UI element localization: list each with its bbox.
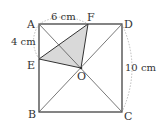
measure-ae: 4 cm [11, 36, 36, 47]
measure-af: 6 cm [51, 11, 76, 22]
label-o: O [77, 70, 86, 83]
square-diagram: A D B C F E O 6 cm 4 cm 10 cm [0, 0, 163, 125]
label-f: F [87, 11, 95, 24]
point-o [80, 67, 83, 70]
label-d: D [124, 18, 133, 31]
measure-dc: 10 cm [125, 62, 157, 73]
label-a: A [26, 18, 36, 31]
label-e: E [27, 59, 35, 72]
label-c: C [124, 110, 132, 123]
shaded-triangle-efo [39, 24, 88, 68]
label-b: B [28, 108, 36, 121]
